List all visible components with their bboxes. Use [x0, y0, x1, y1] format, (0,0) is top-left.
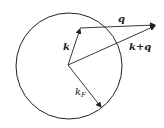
diagram-svg: k q k+q kF [0, 0, 164, 128]
label-q: q [118, 13, 125, 24]
fermi-sphere-diagram: k q k+q kF [0, 0, 164, 128]
label-k-fermi-subscript: F [80, 91, 87, 99]
k-fermi-radius-arrow [68, 65, 101, 107]
label-k-plus-q: k+q [129, 41, 151, 52]
label-k: k [63, 41, 70, 52]
q-vector-arrow [80, 25, 155, 28]
label-k-fermi: kF [75, 86, 87, 99]
